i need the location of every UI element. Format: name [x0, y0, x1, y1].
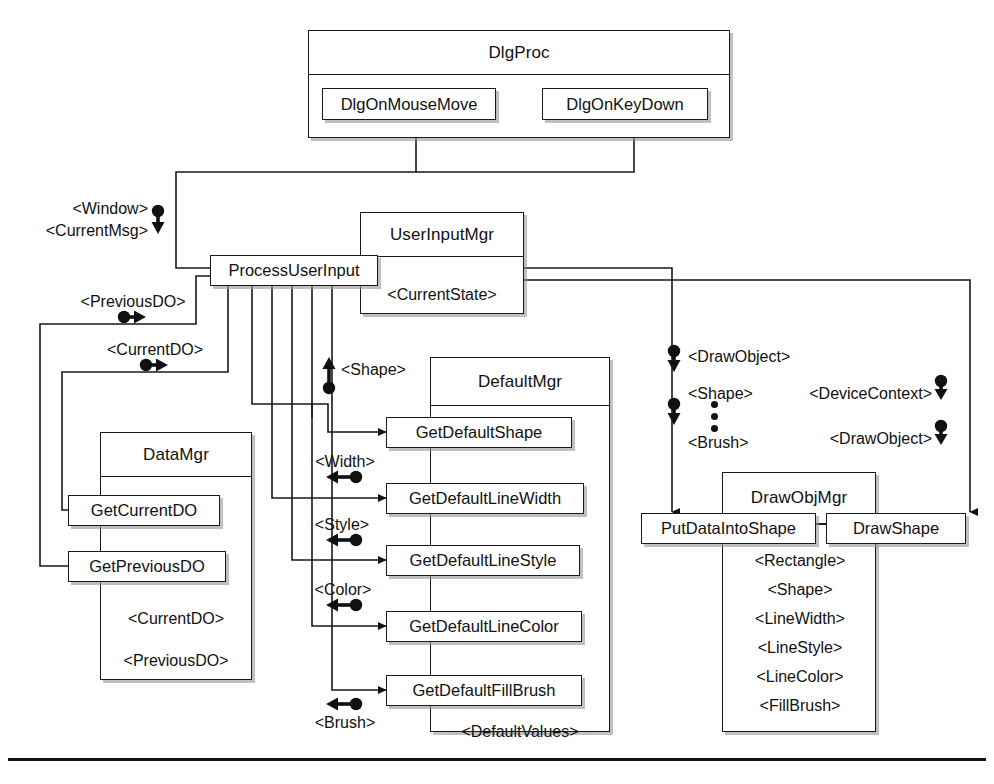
- operation-processuserinput[interactable]: ProcessUserInput: [210, 255, 378, 286]
- flow-label-window: <Window>: [72, 200, 148, 218]
- attribute-defaultvalues: <DefaultValues>: [461, 723, 578, 741]
- flow-label-brush-right: <Brush>: [688, 434, 748, 452]
- operation-dlgonmousemove[interactable]: DlgOnMouseMove: [322, 88, 496, 120]
- flow-label-currentmsg: <CurrentMsg>: [46, 222, 148, 240]
- operation-getcurrentdo[interactable]: GetCurrentDO: [68, 495, 220, 526]
- attribute-datamgr-previousdo: <PreviousDO>: [124, 652, 229, 670]
- attribute-rectangle: <Rectangle>: [755, 552, 846, 570]
- flow-label-shape-right: <Shape>: [688, 385, 753, 403]
- class-body-userinputmgr: [361, 257, 523, 313]
- attribute-currentstate: <CurrentState>: [387, 286, 496, 304]
- operation-getdefaultshape[interactable]: GetDefaultShape: [386, 417, 572, 448]
- flow-label-color: <Color>: [315, 581, 372, 599]
- operation-getdefaultlinewidth[interactable]: GetDefaultLineWidth: [386, 483, 584, 514]
- operation-getdefaultlinestyle[interactable]: GetDefaultLineStyle: [386, 545, 580, 576]
- flow-label-shape: <Shape>: [341, 361, 406, 379]
- class-title-dlgproc: DlgProc: [309, 31, 729, 75]
- flow-label-style: <Style>: [315, 516, 369, 534]
- flow-label-width: <Width>: [315, 453, 375, 471]
- flow-label-currentdo: <CurrentDO>: [107, 341, 203, 359]
- operation-getdefaultlinecolor[interactable]: GetDefaultLineColor: [386, 611, 582, 642]
- class-title-datamgr: DataMgr: [101, 433, 251, 477]
- flow-label-drawobject: <DrawObject>: [688, 348, 790, 366]
- operation-getpreviousdo[interactable]: GetPreviousDO: [68, 551, 226, 582]
- page-footer-rule: [8, 758, 986, 761]
- diagram-canvas: DlgProc DlgOnMouseMove DlgOnKeyDown User…: [0, 0, 994, 784]
- flow-label-drawobject2: <DrawObject>: [830, 430, 932, 448]
- flow-label-devicecontext: <DeviceContext>: [809, 385, 932, 403]
- flow-label-previousdo: <PreviousDO>: [81, 293, 186, 311]
- class-box-dlgproc: DlgProc: [308, 30, 730, 138]
- class-title-userinputmgr: UserInputMgr: [361, 213, 523, 257]
- attribute-linestyle: <LineStyle>: [758, 639, 843, 657]
- flow-label-brush: <Brush>: [315, 714, 375, 732]
- attribute-datamgr-currentdo: <CurrentDO>: [128, 610, 224, 628]
- attribute-fillbrush: <FillBrush>: [760, 697, 841, 715]
- operation-getdefaultfillbrush[interactable]: GetDefaultFillBrush: [386, 675, 582, 706]
- operation-putdataintoshape[interactable]: PutDataIntoShape: [641, 513, 816, 544]
- class-title-defaultmgr: DefaultMgr: [431, 358, 609, 406]
- attribute-linewidth: <LineWidth>: [755, 610, 845, 628]
- attribute-shape: <Shape>: [768, 581, 833, 599]
- operation-drawshape[interactable]: DrawShape: [826, 513, 966, 544]
- attribute-linecolor: <LineColor>: [756, 668, 843, 686]
- vertical-ellipsis-icon: [711, 401, 718, 432]
- operation-dlgonkeydown[interactable]: DlgOnKeyDown: [542, 88, 708, 120]
